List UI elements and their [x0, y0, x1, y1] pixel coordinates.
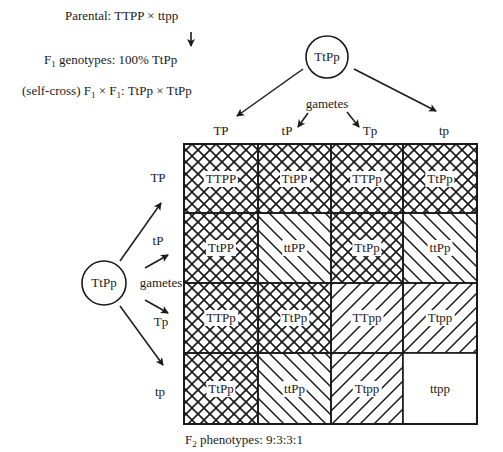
- f2-phenotypes-caption: F2 phenotypes: 9:3:3:1: [185, 433, 303, 447]
- arrow-left-Tp-icon: [145, 300, 168, 313]
- punnett-cell-genotype: TtPp: [280, 310, 309, 326]
- left-gamete-Tp: Tp: [154, 315, 168, 329]
- punnett-cell-genotype: TtPP: [279, 171, 309, 187]
- left-gametes-label: gametes: [140, 276, 183, 290]
- top-gamete-Tp: Tp: [363, 124, 377, 138]
- punnett-cell-genotype: ttPp: [428, 240, 453, 256]
- punnett-cell-genotype: TtPP: [206, 240, 236, 256]
- arrow-left-TP-icon: [120, 203, 161, 261]
- top-parent-genotype: TtPp: [314, 49, 339, 65]
- self-cross-text: (self-cross) F1 × F1: TtPp × TtPp: [22, 84, 192, 98]
- arrow-top-tp-icon: [354, 69, 436, 111]
- punnett-cell-genotype: TtPp: [352, 240, 381, 256]
- parental-cross-text: Parental: TTPP × ttpp: [65, 9, 178, 23]
- punnett-cell-genotype: TtPp: [425, 171, 454, 187]
- punnett-cell-genotype: ttpp: [428, 381, 452, 397]
- arrow-left-tP-icon: [145, 255, 168, 268]
- punnett-cell-genotype: TTPP: [204, 171, 238, 187]
- arrow-top-Tp-icon: [347, 112, 359, 127]
- left-gamete-TP: TP: [150, 171, 165, 185]
- punnett-cell-genotype: TTPp: [204, 310, 238, 326]
- punnett-cell-genotype: TtPp: [206, 381, 235, 397]
- top-gamete-TP: TP: [213, 124, 228, 138]
- punnett-cell-genotype: Ttpp: [426, 310, 455, 326]
- punnett-cell-genotype: TTpp: [351, 310, 384, 326]
- arrow-top-TP-icon: [237, 69, 303, 116]
- f1-genotypes-text: F1 genotypes: 100% TtPp: [44, 53, 177, 67]
- punnett-cell-genotype: Ttpp: [353, 381, 382, 397]
- top-gamete-tp: tp: [439, 124, 449, 138]
- punnett-cell-genotype: ttPP: [282, 240, 308, 256]
- arrow-top-tP-icon: [298, 113, 308, 127]
- top-gamete-tP: tP: [282, 124, 293, 138]
- left-gamete-tP: tP: [153, 234, 164, 248]
- punnett-cell-genotype: TTPp: [350, 171, 384, 187]
- left-gamete-tp: tp: [155, 385, 165, 399]
- left-parent-genotype: TtPp: [91, 275, 116, 291]
- top-gametes-label: gametes: [306, 97, 349, 111]
- punnett-cell-genotype: ttPp: [282, 381, 307, 397]
